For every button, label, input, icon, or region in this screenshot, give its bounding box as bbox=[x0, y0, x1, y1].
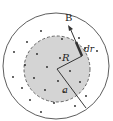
label-R: R bbox=[61, 52, 70, 63]
current-dot bbox=[33, 77, 35, 79]
current-distribution-diagram: B R a dr bbox=[0, 0, 113, 121]
current-dot bbox=[53, 102, 55, 104]
current-dot bbox=[78, 37, 80, 39]
label-B: B bbox=[65, 12, 72, 23]
current-dot bbox=[40, 30, 42, 32]
current-dot bbox=[12, 76, 14, 78]
current-dot bbox=[13, 51, 15, 53]
current-dot bbox=[24, 64, 26, 66]
current-dot bbox=[61, 38, 63, 40]
label-dr: dr bbox=[84, 44, 95, 54]
current-dot bbox=[96, 50, 98, 52]
current-dot bbox=[40, 111, 42, 113]
current-dot bbox=[69, 70, 71, 72]
current-dot bbox=[44, 89, 46, 91]
current-dot bbox=[59, 57, 61, 59]
B-arrowhead-icon bbox=[68, 25, 73, 31]
current-dot bbox=[85, 95, 87, 97]
current-dot bbox=[21, 87, 23, 89]
current-dot bbox=[57, 80, 59, 82]
current-dot bbox=[46, 66, 48, 68]
current-dot bbox=[79, 81, 81, 83]
current-dot bbox=[26, 41, 28, 43]
current-dot bbox=[36, 53, 38, 55]
current-dot bbox=[29, 99, 31, 101]
label-a: a bbox=[62, 84, 68, 95]
current-dot bbox=[74, 105, 76, 107]
